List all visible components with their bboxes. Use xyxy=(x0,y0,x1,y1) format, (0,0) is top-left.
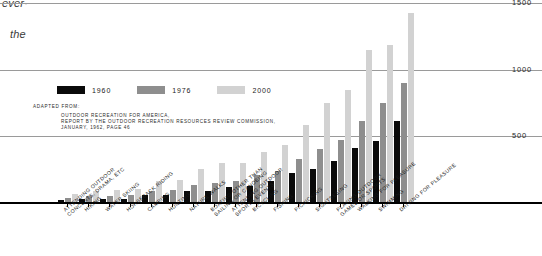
bar-1976 xyxy=(296,159,302,202)
legend-item-1976: 1976 xyxy=(137,86,191,94)
legend-swatch-2000 xyxy=(217,86,245,94)
source-heading: ADAPTED FROM: xyxy=(33,104,276,109)
chart-legend: 196019762000 xyxy=(57,86,298,94)
legend-item-2000: 2000 xyxy=(217,86,271,94)
legend-label-1976: 1976 xyxy=(172,87,191,94)
bar-1976 xyxy=(401,83,407,202)
legend-swatch-1960 xyxy=(57,86,85,94)
bar-2000 xyxy=(408,13,414,202)
bar-2000 xyxy=(324,103,330,202)
legend-label-1960: 1960 xyxy=(92,87,111,94)
legend-label-2000: 2000 xyxy=(252,87,271,94)
legend-swatch-1976 xyxy=(137,86,165,94)
legend-item-1960: 1960 xyxy=(57,86,111,94)
source-body: OUTDOOR RECREATION FOR AMERICA, REPORT B… xyxy=(61,113,276,131)
bar-group xyxy=(289,125,310,202)
chart-page: ever· the 50010001500 ATTENDING OUTDOOR … xyxy=(0,0,542,256)
bar-2000 xyxy=(303,125,309,202)
source-attribution: ADAPTED FROM: OUTDOOR RECREATION FOR AME… xyxy=(33,104,276,131)
